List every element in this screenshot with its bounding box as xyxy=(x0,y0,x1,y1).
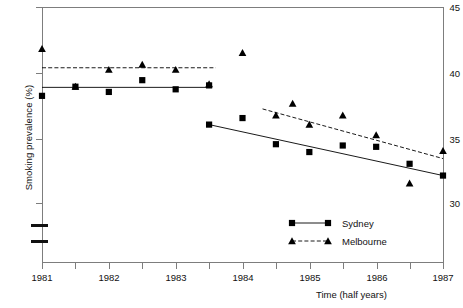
legend-label-melbourne: Melbourne xyxy=(342,236,387,247)
x-tick-1981 xyxy=(42,262,43,269)
x-tick-label-1983: 1983 xyxy=(156,272,196,283)
plot-top-border xyxy=(42,7,443,8)
plot-right-border xyxy=(443,7,444,262)
x-tick-1983h xyxy=(209,262,210,269)
x-tick-1986 xyxy=(377,262,378,269)
x-tick-label-1987: 1987 xyxy=(423,272,463,283)
x-tick-1982 xyxy=(109,262,110,269)
x-tick-1982h xyxy=(142,262,143,269)
y-axis-break-mark-lower xyxy=(31,240,48,243)
y-axis-title: Smoking prevalence (%) xyxy=(23,48,34,228)
x-tick-1983 xyxy=(176,262,177,269)
y-tick-35 xyxy=(36,139,43,140)
x-tick-1986h xyxy=(410,262,411,269)
y-tick-45 xyxy=(36,7,43,8)
x-tick-label-1986: 1986 xyxy=(357,272,397,283)
x-tick-label-1981: 1981 xyxy=(22,272,62,283)
x-axis-title: Time (half years) xyxy=(316,289,387,300)
x-tick-1981h xyxy=(75,262,76,269)
x-tick-1985 xyxy=(310,262,311,269)
y-tick-label-30: 30 xyxy=(436,198,460,209)
y-tick-label-40: 40 xyxy=(436,68,460,79)
y-tick-30 xyxy=(36,203,43,204)
y-tick-40 xyxy=(36,73,43,74)
x-tick-1984 xyxy=(243,262,244,269)
x-tick-label-1985: 1985 xyxy=(290,272,330,283)
y-tick-label-35: 35 xyxy=(436,134,460,145)
x-tick-1984h xyxy=(276,262,277,269)
x-tick-label-1984: 1984 xyxy=(223,272,263,283)
y-axis-break-mark-upper xyxy=(31,224,48,227)
legend-label-sydney: Sydney xyxy=(342,218,374,229)
x-tick-1985h xyxy=(343,262,344,269)
x-tick-label-1982: 1982 xyxy=(89,272,129,283)
x-tick-1987 xyxy=(443,262,444,269)
